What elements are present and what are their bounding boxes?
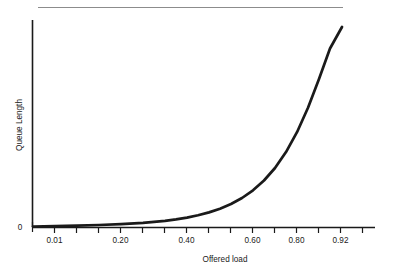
x-tick-label-0: 0.01: [47, 236, 63, 245]
y-axis-origin-label: 0: [18, 223, 23, 232]
x-tick-label-1: 0.20: [113, 236, 129, 245]
x-tick-label-3: 0.60: [245, 236, 261, 245]
x-axis-title: Offered load: [203, 255, 248, 264]
queue-length-chart-svg: 0 0.01 0.20 0.40 0.60 0.80 0.92 Offered …: [0, 0, 393, 280]
x-tick-label-2: 0.40: [179, 236, 195, 245]
y-axis-title: Queue Length: [15, 99, 24, 151]
x-tick-label-4: 0.80: [289, 236, 305, 245]
x-tick-label-5: 0.92: [333, 236, 349, 245]
chart-figure: 0 0.01 0.20 0.40 0.60 0.80 0.92 Offered …: [0, 0, 393, 280]
